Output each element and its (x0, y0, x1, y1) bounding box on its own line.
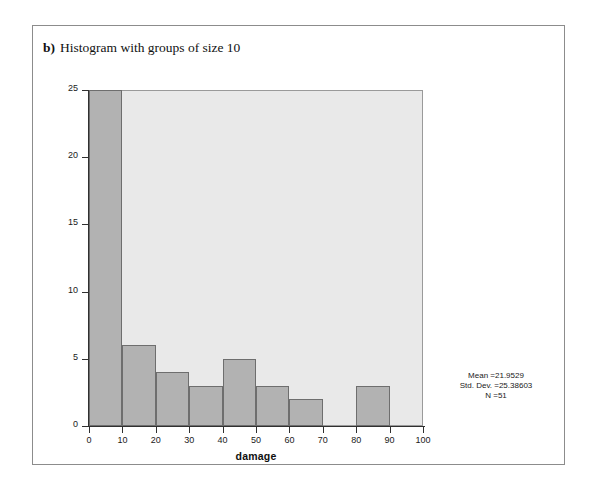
x-tick-label: 70 (311, 435, 335, 445)
x-tick-0 (89, 427, 90, 433)
y-tick-25: 25 (82, 90, 88, 91)
x-tick-label: 60 (277, 435, 301, 445)
histogram-bar (122, 345, 155, 426)
x-tick-100 (423, 427, 424, 433)
x-tick-60 (289, 427, 290, 433)
x-tick-label: 50 (244, 435, 268, 445)
x-tick-label: 100 (411, 435, 435, 445)
histogram-bar (289, 399, 322, 426)
x-axis-title: damage (89, 450, 423, 462)
y-tick-label: 5 (73, 352, 78, 362)
y-tick-label: 20 (68, 150, 78, 160)
x-tick-70 (323, 427, 324, 433)
x-tick-40 (223, 427, 224, 433)
y-tick-label: 10 (68, 285, 78, 295)
x-tick-label: 40 (211, 435, 235, 445)
x-tick-label: 20 (144, 435, 168, 445)
x-tick-label: 0 (77, 435, 101, 445)
stats-stddev: Std. Dev. =25.38603 (431, 381, 561, 391)
x-tick-30 (189, 427, 190, 433)
y-tick-label: 0 (73, 419, 78, 429)
histogram-bar (356, 386, 389, 426)
histogram-bar (223, 359, 256, 426)
x-tick-80 (356, 427, 357, 433)
y-axis-title: Frequency (41, 0, 55, 118)
x-tick-label: 80 (344, 435, 368, 445)
histogram-bar (156, 372, 189, 426)
y-tick-label: 25 (68, 83, 78, 93)
histogram-bar (189, 386, 222, 426)
x-tick-10 (122, 427, 123, 433)
figure-frame: b)Histogram with groups of size 10 05101… (32, 25, 565, 465)
x-tick-50 (256, 427, 257, 433)
y-tick-20: 20 (82, 157, 88, 158)
x-tick-label: 10 (110, 435, 134, 445)
y-tick-5: 5 (82, 359, 88, 360)
x-tick-label: 90 (378, 435, 402, 445)
y-tick-10: 10 (82, 292, 88, 293)
stats-mean: Mean =21.9529 (431, 371, 561, 381)
x-tick-label: 30 (177, 435, 201, 445)
x-tick-20 (156, 427, 157, 433)
stats-annotation: Mean =21.9529 Std. Dev. =25.38603 N =51 (431, 371, 561, 401)
y-tick-label: 15 (68, 217, 78, 227)
histogram-bar (89, 90, 122, 426)
stats-n: N =51 (431, 391, 561, 401)
histogram-chart: 0510152025 Frequency 0102030405060708090… (33, 26, 566, 466)
x-tick-90 (390, 427, 391, 433)
histogram-bar (256, 386, 289, 426)
y-tick-15: 15 (82, 224, 88, 225)
